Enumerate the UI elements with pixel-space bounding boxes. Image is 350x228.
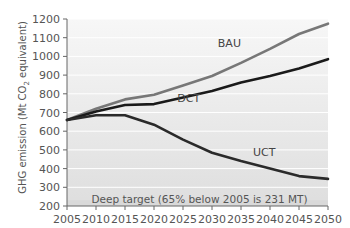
y-tick-label: 1100: [32, 32, 60, 45]
x-tick-label: 2035: [227, 213, 255, 226]
y-tick-label: 700: [39, 107, 60, 120]
deep-target-annotation: Deep target (65% below 2005 is 231 MT): [91, 193, 307, 205]
y-tick-label: 900: [39, 69, 60, 82]
x-tick-label: 2005: [53, 213, 81, 226]
series-label-uct: UCT: [253, 146, 276, 159]
x-tick-label: 2010: [82, 213, 110, 226]
y-tick-label: 500: [39, 144, 60, 157]
y-tick-label: 600: [39, 125, 60, 138]
y-axis-title: GHG emission (Mt CO2 equivalent): [17, 21, 31, 194]
x-tick-label: 2025: [169, 213, 197, 226]
series-label-dct: DCT: [177, 92, 200, 105]
y-tick-label: 1200: [32, 13, 60, 26]
x-tick-label: 2020: [140, 213, 168, 226]
x-tick-label: 2045: [285, 213, 313, 226]
y-tick-label: 400: [39, 163, 60, 176]
y-tick-label: 800: [39, 88, 60, 101]
x-tick-label: 2030: [198, 213, 226, 226]
series-label-bau: BAU: [218, 37, 241, 50]
ghg-emission-chart: 2003004005006007008009001000110012002005…: [0, 0, 350, 228]
y-tick-label: 200: [39, 200, 60, 213]
y-tick-label: 1000: [32, 50, 60, 63]
x-tick-label: 2040: [256, 213, 284, 226]
y-tick-label: 300: [39, 181, 60, 194]
x-tick-label: 2050: [314, 213, 342, 226]
x-tick-label: 2015: [111, 213, 139, 226]
